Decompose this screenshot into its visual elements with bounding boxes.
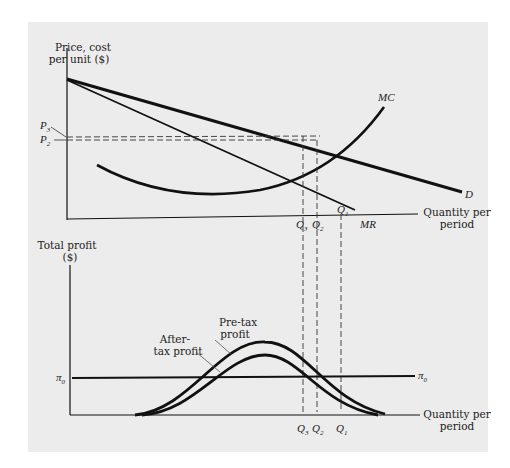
- p3-leader: [51, 127, 66, 137]
- q2-top-label: Q2: [312, 218, 324, 233]
- figure: Price, cost per unit ($) P3 P2 MC D MR Q…: [0, 0, 510, 468]
- d-label: D: [464, 188, 473, 200]
- pretax-label-line2: profit: [220, 328, 250, 340]
- pi0-line: [72, 376, 415, 378]
- top-ylabel-line2: per unit ($): [49, 53, 110, 65]
- q-dashed-lines: [303, 136, 341, 412]
- marginal-revenue-curve: [67, 80, 355, 210]
- pretax-label-line1: Pre-tax: [219, 316, 257, 328]
- q1-top-label: Q1: [337, 203, 348, 218]
- demand-curve: [67, 79, 462, 192]
- mc-label: MC: [377, 91, 395, 103]
- p3-label: P3: [39, 119, 51, 134]
- aftertax-profit-curve: [142, 355, 378, 415]
- bottom-ylabel-line2: ($): [63, 251, 78, 263]
- aftertax-label-line2: tax profit: [153, 345, 203, 357]
- aftertax-leader: [196, 352, 220, 372]
- aftertax-label-line1: After-: [159, 333, 191, 345]
- top-chart: Price, cost per unit ($) P3 P2 MC D MR Q…: [39, 41, 492, 233]
- pi0-right-label: π0: [418, 369, 428, 384]
- bottom-ylabel-line1: Total profit: [38, 239, 98, 251]
- bottom-xlabel-line2: period: [440, 420, 475, 432]
- bottom-xlabel-line1: Quantity per: [423, 408, 491, 420]
- pi0-left-label: π0: [56, 371, 66, 386]
- top-ylabel-line1: Price, cost: [55, 41, 112, 53]
- q3-top-label: Q3: [296, 218, 308, 233]
- mr-label: MR: [359, 218, 376, 230]
- p3-dashed-line: [67, 136, 320, 137]
- q3-bottom-label: Q3: [297, 422, 309, 437]
- q2-bottom-label: Q2: [312, 422, 324, 437]
- q1-bottom-label: Q1: [336, 422, 347, 437]
- p2-label: P2: [39, 133, 51, 148]
- top-xlabel-line2: period: [440, 218, 475, 230]
- top-xlabel-line1: Quantity per: [423, 206, 491, 218]
- marginal-cost-curve: [97, 107, 384, 194]
- bottom-chart: Total profit ($) π0 π0 Pre-tax profit Af…: [38, 239, 492, 437]
- pretax-leader: [215, 340, 232, 355]
